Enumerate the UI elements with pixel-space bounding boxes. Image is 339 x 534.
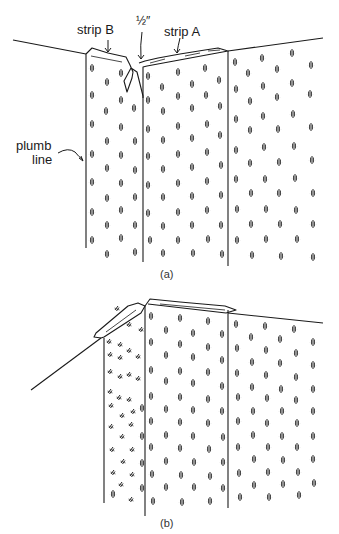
ceiling-line xyxy=(228,313,323,323)
panel-a-caption: (a) xyxy=(160,268,173,280)
strip-a-folded-top xyxy=(145,299,236,313)
strip-a-arrow xyxy=(174,38,180,53)
panel-b-caption: (b) xyxy=(160,517,173,529)
ceiling-line xyxy=(228,38,323,51)
strip-a-label: strip A xyxy=(164,25,200,39)
strip-b-outline xyxy=(86,48,143,248)
wallpaper-pattern-b xyxy=(107,306,318,506)
figure-canvas xyxy=(0,0,339,534)
strip-b-arrow xyxy=(105,40,111,52)
strip-a-outline xyxy=(139,48,228,96)
strip-b-label: strip B xyxy=(77,23,114,37)
half-inch-label: ½″ xyxy=(136,14,150,28)
half-inch-arrow xyxy=(138,32,144,59)
strip-b-folded-top xyxy=(94,303,145,338)
wallpaper-pattern-a xyxy=(89,49,316,261)
panel-b xyxy=(31,299,323,516)
plumb-line-arrow xyxy=(58,150,83,161)
plumb-line-label-2: line xyxy=(32,153,52,167)
ceiling-line xyxy=(31,338,101,390)
ceiling-line xyxy=(13,40,86,54)
plumb-line-label-1: plumb xyxy=(16,139,51,153)
